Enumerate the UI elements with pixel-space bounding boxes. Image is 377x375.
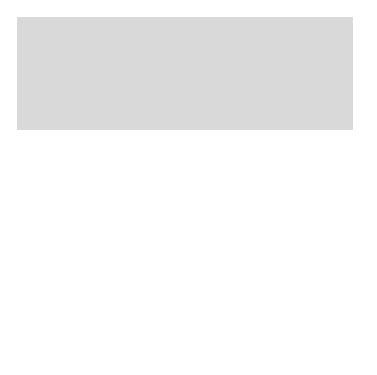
macrophage-diagram (0, 0, 377, 375)
